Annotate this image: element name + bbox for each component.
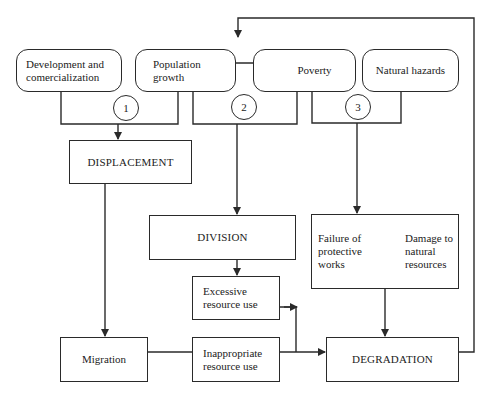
damage-label: Damage to natural resources (405, 232, 461, 271)
displacement-label: DISPLACEMENT (87, 156, 173, 169)
process-degradation: DEGRADATION (326, 337, 459, 382)
process-division: DIVISION (149, 215, 296, 260)
inappropriate-label: Inappropriate resource use (203, 347, 279, 373)
excessive-label: Excessive resource use (203, 285, 279, 311)
marker-2-label: 2 (241, 101, 247, 113)
effect-migration: Migration (60, 337, 148, 382)
cause-natural-hazards: Natural hazards (362, 49, 459, 92)
cause-population-label: Population growth (153, 58, 201, 84)
marker-1: 1 (113, 95, 139, 121)
marker-2: 2 (231, 94, 257, 120)
migration-label: Migration (82, 353, 126, 366)
cause-poverty-label: Poverty (297, 64, 331, 77)
degradation-label: DEGRADATION (352, 353, 433, 366)
division-label: DIVISION (197, 231, 247, 244)
marker-3-label: 3 (355, 101, 361, 113)
cause-development: Development and comercialization (16, 49, 122, 92)
cause-poverty: Poverty (253, 49, 356, 92)
cause-population: Population growth (135, 49, 236, 92)
cause-development-label: Development and comercialization (26, 58, 121, 84)
marker-1-label: 1 (123, 102, 129, 114)
cause-hazards-label: Natural hazards (376, 64, 445, 77)
effect-inappropriate-resource-use: Inappropriate resource use (192, 337, 280, 382)
process-displacement: DISPLACEMENT (69, 140, 192, 184)
effect-excessive-resource-use: Excessive resource use (192, 276, 280, 320)
failure-label: Failure of protective works (318, 232, 370, 271)
marker-3: 3 (345, 94, 371, 120)
